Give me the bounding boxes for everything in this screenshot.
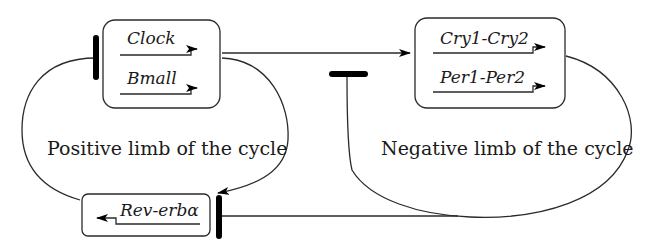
gene-bmall: Bmall <box>126 68 177 88</box>
negative-limb-label: Negative limb of the cycle <box>381 137 633 159</box>
gene-per1-per2: Per1-Per2 <box>439 67 525 87</box>
gene-clock: Clock <box>127 28 176 48</box>
positive-gene-box: Clock Bmall <box>103 20 220 108</box>
positive-loop-left-arc <box>22 58 96 200</box>
positive-loop-right-arc <box>218 58 288 193</box>
positive-limb-label: Positive limb of the cycle <box>47 137 287 159</box>
gene-rev-erb-alpha: Rev-erbα <box>119 200 199 220</box>
negative-gene-box: Cry1-Cry2 Per1-Per2 <box>415 18 565 108</box>
gene-cry1-cry2: Cry1-Cry2 <box>440 28 529 48</box>
reverb-gene-box: Rev-erbα <box>82 194 210 236</box>
circadian-diagram: Clock Bmall Cry1-Cry2 Per1-Per2 Rev-erbα… <box>0 0 653 252</box>
